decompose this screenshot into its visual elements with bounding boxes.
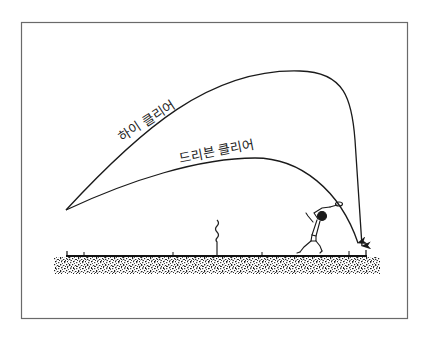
badminton-clear-diagram: 하이 클리어 드리븐 클리어 — [0, 0, 434, 338]
figure-frame — [22, 23, 408, 319]
high-clear-label: 하이 클리어 — [115, 97, 177, 145]
driven-clear-trajectory — [66, 158, 358, 243]
player — [297, 202, 343, 253]
net — [216, 220, 219, 256]
